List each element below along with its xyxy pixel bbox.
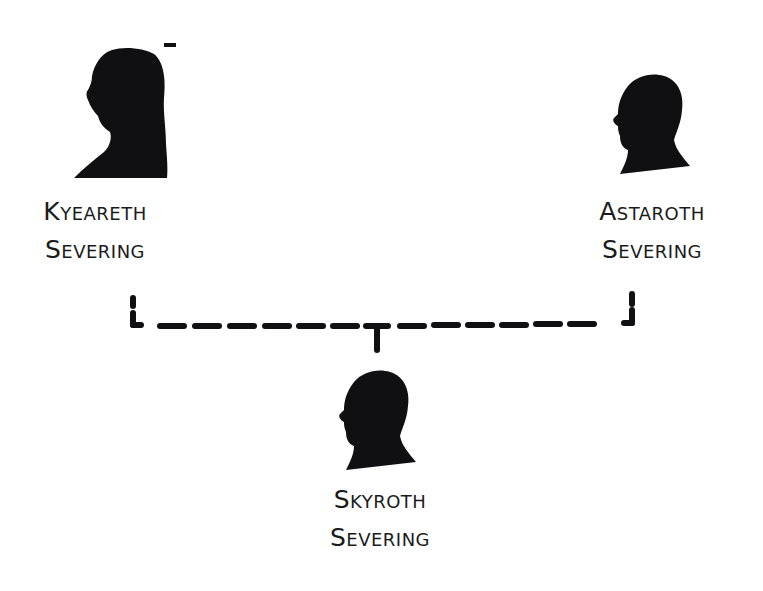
person-name-label: Astaroth Severing — [577, 193, 727, 269]
first-name: Kyeareth — [30, 193, 160, 231]
male-silhouette-icon — [608, 70, 690, 180]
last-name: Severing — [30, 231, 160, 269]
female-silhouette-icon — [72, 40, 182, 180]
male-silhouette-icon — [334, 366, 416, 476]
last-name: Severing — [305, 519, 455, 557]
person-name-label: Skyroth Severing — [305, 481, 455, 557]
person-name-label: Kyeareth Severing — [30, 193, 160, 269]
first-name: Skyroth — [305, 481, 455, 519]
last-name: Severing — [577, 231, 727, 269]
first-name: Astaroth — [577, 193, 727, 231]
